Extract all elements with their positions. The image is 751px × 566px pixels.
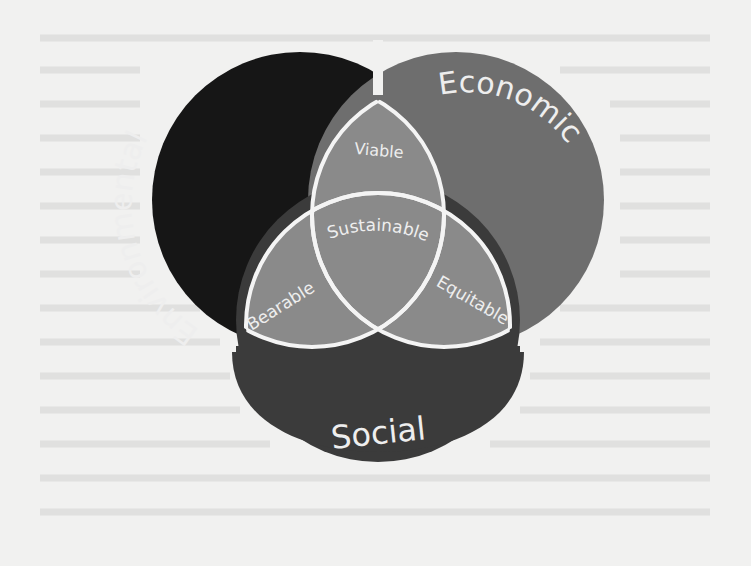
sustainability-venn-diagram: Environmental Economic Social Viable Sus… [0, 0, 751, 566]
